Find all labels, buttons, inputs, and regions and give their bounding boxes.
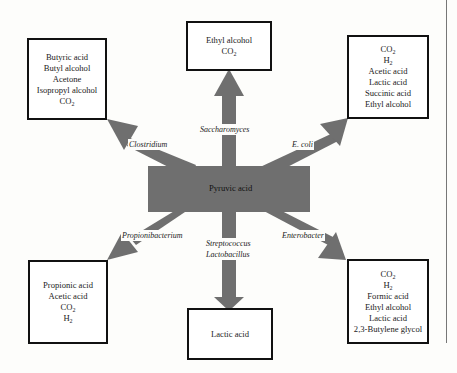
product-item-h2: H2 [383, 280, 392, 291]
product-item-co2: CO2 [381, 44, 396, 55]
label-saccharomyces: Saccharomyces [199, 124, 250, 135]
arrow-up-saccharomyces [214, 69, 244, 172]
product-item: Butyl alcohol [44, 63, 91, 74]
product-item-co2: CO2 [381, 269, 396, 280]
product-item: Formic acid [367, 291, 408, 302]
product-item: Lactic acid [211, 329, 249, 340]
label-clostridium: Clostridium [128, 139, 168, 150]
product-item: Lactic acid [369, 77, 407, 88]
product-item: Lactic acid [369, 313, 407, 324]
product-item: Propionic acid [43, 280, 93, 291]
product-item: Ethyl alcohol [206, 35, 252, 46]
product-item-h2: H2 [383, 55, 392, 66]
product-item-h2: H2 [63, 313, 72, 324]
product-item: 2,3-Butylene glycol [354, 324, 422, 335]
label-propionibacterium: Propionibacterium [121, 230, 184, 241]
label-enterobacter: Enterobacter [281, 230, 325, 241]
product-item: Acetone [53, 74, 82, 85]
products-box-enterobacter: CO2 H2 Formic acid Ethyl alcohol Lactic … [347, 259, 429, 344]
products-box-saccharomyces: Ethyl alcohol CO2 [186, 21, 272, 71]
products-box-clostridium: Butyric acid Butyl alcohol Acetone Isopr… [27, 38, 107, 120]
product-item-co2: CO2 [60, 96, 75, 107]
label-streptococcus: Streptococcus [205, 238, 252, 249]
product-item: Butyric acid [46, 52, 88, 63]
product-item: Acetic acid [49, 291, 88, 302]
pyruvic-acid-label: Pyruvic acid [209, 183, 252, 193]
products-box-lactic: Lactic acid [187, 308, 273, 360]
fermentation-diagram: Pyruvic acid Saccharomyces Clostridium E… [0, 0, 457, 373]
page-edge-rule [446, 0, 447, 343]
products-box-propionibacterium: Propionic acid Acetic acid CO2 H2 [28, 260, 108, 344]
product-item: Succinic acid [365, 88, 411, 99]
product-item: Ethyl alcohol [365, 302, 411, 313]
product-item: Ethyl alcohol [365, 99, 411, 110]
product-item-co2: CO2 [61, 302, 76, 313]
product-item: Isopropyl alcohol [37, 85, 97, 96]
label-ecoli: E. coli [291, 139, 314, 150]
product-item: Acetic acid [369, 66, 408, 77]
arrow-down-lactic [214, 210, 244, 311]
products-box-ecoli: CO2 H2 Acetic acid Lactic acid Succinic … [347, 35, 429, 119]
label-lactobacillus: Lactobacillus [205, 249, 251, 260]
product-item-co2: CO2 [222, 46, 237, 57]
